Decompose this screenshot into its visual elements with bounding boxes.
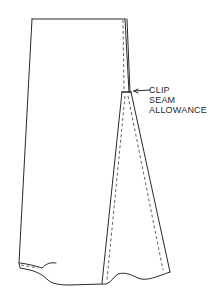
annotation-label: CLIP SEAM ALLOWANCE	[149, 85, 207, 115]
skirt-diagram	[0, 0, 218, 294]
godet-panel	[102, 92, 170, 284]
arrow-left-icon	[134, 89, 150, 93]
skirt-panel-outline	[19, 19, 125, 285]
annotation-line-1: CLIP	[149, 85, 207, 95]
annotation-line-3: ALLOWANCE	[149, 105, 207, 115]
upper-side-seam	[123, 19, 130, 92]
annotation-line-2: SEAM	[149, 95, 207, 105]
